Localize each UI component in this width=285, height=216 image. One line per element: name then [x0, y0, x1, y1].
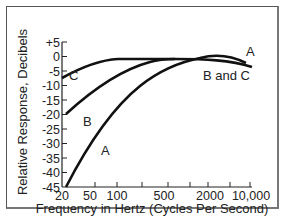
y-tick-labels: +5 0 -5 -10 -15 -20 -25 -30 -35 -40 -45	[42, 36, 60, 195]
y-tick-label: -30	[42, 137, 60, 151]
y-tick-label: -10	[42, 79, 60, 93]
x-axis-title: Frequency in Hertz (Cycles Per Second)	[36, 201, 269, 216]
curve-bc-label: B and C	[203, 68, 250, 83]
curve-a-right-label: A	[246, 44, 255, 59]
y-tick-label: -25	[42, 123, 60, 137]
curve-c-label: C	[69, 68, 78, 83]
curve-a-label: A	[101, 143, 110, 158]
y-tick-label: -20	[42, 108, 60, 122]
curve-b-label: B	[83, 114, 92, 129]
y-tick-label: -40	[42, 166, 60, 180]
y-ticks	[62, 42, 67, 173]
y-tick-label: +5	[46, 36, 60, 50]
y-axis-title: Relative Response, Decibels	[15, 28, 30, 195]
frequency-response-chart: +5 0 -5 -10 -15 -20 -25 -30 -35 -40 -45 …	[0, 0, 285, 216]
y-tick-label: 0	[53, 50, 60, 64]
x-ticks	[95, 182, 250, 187]
y-tick-label: -35	[42, 152, 60, 166]
y-tick-label: -15	[42, 94, 60, 108]
y-tick-label: -5	[49, 65, 60, 79]
